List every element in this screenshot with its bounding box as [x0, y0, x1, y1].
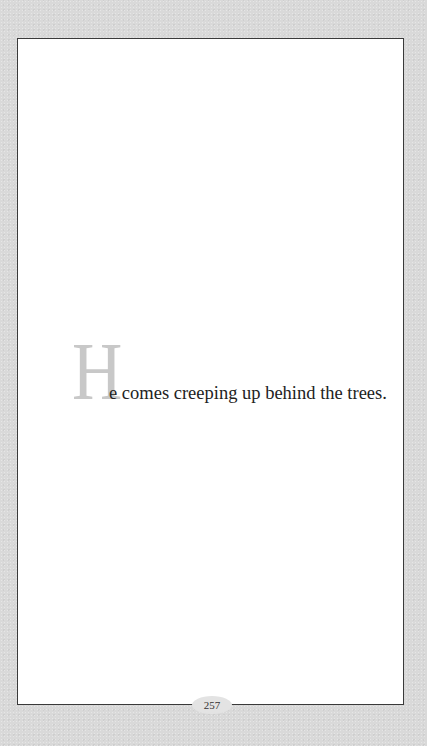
sentence-text: e comes creeping up behind the trees.	[109, 382, 387, 404]
page-number: 257	[192, 696, 232, 714]
